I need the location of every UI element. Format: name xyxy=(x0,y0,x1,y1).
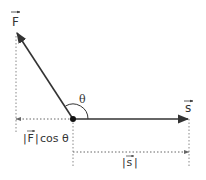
svg-text:|: | xyxy=(134,156,138,169)
force-vector xyxy=(17,33,73,119)
svg-text:|: | xyxy=(35,132,39,145)
svg-text:|: | xyxy=(23,132,27,145)
origin-point xyxy=(70,116,76,122)
svg-text:F: F xyxy=(28,132,34,145)
displacement-label: s xyxy=(185,101,191,115)
guide-lines xyxy=(16,36,189,168)
magnitude-s-label: | s | xyxy=(122,156,138,169)
svg-text:s: s xyxy=(127,156,133,169)
work-vector-diagram: F s θ | F | cos θ | s | xyxy=(0,0,206,180)
projection-label: | F | cos θ xyxy=(23,131,69,145)
svg-text:|: | xyxy=(122,156,126,169)
svg-text:cos θ: cos θ xyxy=(40,132,69,145)
angle-label: θ xyxy=(79,93,86,106)
force-label: F xyxy=(12,15,19,29)
